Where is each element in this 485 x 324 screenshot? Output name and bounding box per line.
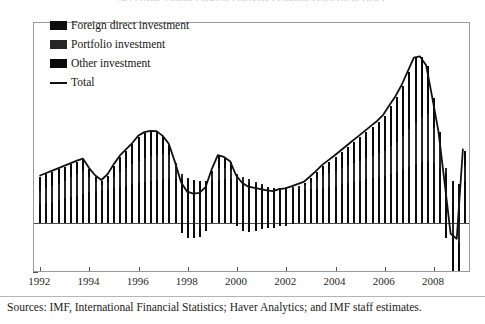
legend-item-other[interactable]: Other investment — [50, 54, 189, 73]
legend-item-fdi[interactable]: Foreign direct investment — [50, 16, 189, 35]
source-divider — [0, 296, 485, 297]
chart-figure: Net Private Capital Flows to Emerging Ec… — [0, 0, 485, 324]
y-tick-mark — [33, 272, 38, 273]
source-note: Sources: IMF, International Financial St… — [7, 301, 422, 313]
x-tick-label: 2008 — [413, 275, 453, 287]
legend-label-fdi: Foreign direct investment — [71, 20, 189, 32]
legend-label-other: Other investment — [71, 58, 151, 70]
x-tick-label: 1998 — [167, 275, 207, 287]
x-tick-label: 2006 — [364, 275, 404, 287]
x-tick-label: 2002 — [265, 275, 305, 287]
x-tick-mark — [434, 267, 435, 271]
legend-item-total[interactable]: Total — [50, 73, 189, 92]
x-tick-mark — [385, 267, 386, 271]
x-tick-mark — [336, 267, 337, 271]
total-line-swatch-icon — [50, 78, 67, 87]
portfolio-swatch-icon — [50, 40, 67, 49]
x-tick-label: 1996 — [118, 275, 158, 287]
x-tick-mark — [89, 267, 90, 271]
x-tick-label: 1992 — [19, 275, 59, 287]
legend-label-total: Total — [71, 77, 94, 89]
x-tick-label: 1994 — [68, 275, 108, 287]
x-tick-mark — [40, 267, 41, 271]
chart-title-clipped: Net Private Capital Flows to Emerging Ec… — [33, 0, 470, 1]
x-tick-mark — [286, 267, 287, 271]
chart-legend: Foreign direct investment Portfolio inve… — [50, 16, 189, 92]
legend-item-portfolio[interactable]: Portfolio investment — [50, 35, 189, 54]
x-tick-label: 2000 — [216, 275, 256, 287]
other-swatch-icon — [50, 59, 67, 68]
legend-label-portfolio: Portfolio investment — [71, 39, 165, 51]
x-tick-mark — [139, 267, 140, 271]
x-tick-mark — [188, 267, 189, 271]
x-tick-mark — [237, 267, 238, 271]
x-tick-label: 2004 — [315, 275, 355, 287]
fdi-swatch-icon — [50, 21, 67, 30]
